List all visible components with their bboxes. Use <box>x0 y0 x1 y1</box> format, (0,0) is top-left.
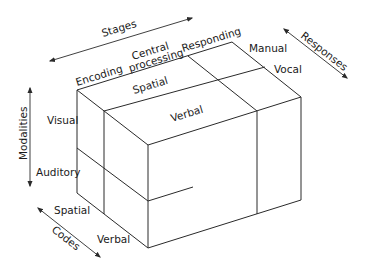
code-spatial-label: Spatial <box>54 204 90 216</box>
stage-encoding-label: Encoding <box>74 62 124 88</box>
top-left-edge <box>77 90 148 145</box>
stages-label: Stages <box>100 17 138 39</box>
responses-label: Responses <box>299 29 350 73</box>
modality-auditory-label: Auditory <box>36 166 81 178</box>
top-code-divider <box>104 67 265 111</box>
stage-responding-label: Responding <box>180 24 242 53</box>
response-vocal-label: Vocal <box>274 63 302 75</box>
modality-visual-label: Visual <box>47 114 78 126</box>
left-modality-divider <box>77 148 148 201</box>
top-verbal-label: Verbal <box>169 103 204 124</box>
top-spatial-label: Spatial <box>131 74 169 96</box>
codes-label: Codes <box>50 223 83 252</box>
code-verbal-label: Verbal <box>97 233 130 245</box>
front-modality-partial <box>148 187 193 201</box>
front-bottom-edge <box>148 200 301 248</box>
modalities-label: Modalities <box>17 107 29 160</box>
response-manual-label: Manual <box>249 42 287 54</box>
multiple-resource-cube-diagram: Stages Encoding Central processing Respo… <box>0 0 365 269</box>
